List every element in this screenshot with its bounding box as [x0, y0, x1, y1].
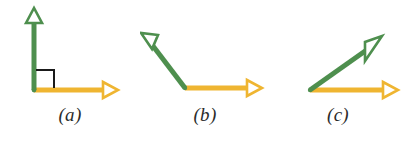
initial-side-ray-a [34, 82, 118, 98]
panel-label-c: (c) [270, 104, 406, 126]
initial-side-ray-b [185, 80, 262, 96]
angle-panel-a: (a) [0, 0, 140, 145]
vertex-point-c [308, 88, 312, 92]
terminal-side-shaft-b [153, 46, 185, 88]
vertex-point-a [32, 88, 37, 93]
terminal-side-ray-c [310, 36, 382, 90]
angle-panel-b: (b) [140, 0, 270, 145]
initial-side-arrowhead-a [103, 82, 118, 98]
terminal-side-ray-b [141, 33, 185, 88]
initial-side-ray-c [310, 82, 398, 98]
right-angle-mark-a [36, 70, 54, 88]
terminal-side-arrowhead-a [26, 8, 42, 23]
terminal-side-shaft-c [310, 49, 368, 90]
initial-side-arrowhead-c [383, 82, 398, 98]
initial-side-arrowhead-b [247, 80, 262, 96]
vertex-point-b [183, 86, 187, 90]
angle-panel-c: (c) [270, 0, 406, 145]
terminal-side-ray-a [26, 8, 42, 90]
panel-label-a: (a) [0, 104, 140, 126]
panel-label-b: (b) [140, 104, 270, 126]
angle-figure: (a) (b) [0, 0, 406, 145]
terminal-side-arrowhead-c [365, 36, 382, 61]
